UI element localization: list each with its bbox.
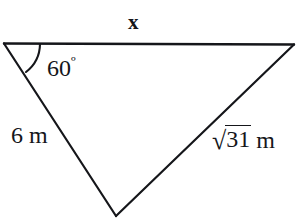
radical-sign-icon: √ — [212, 128, 226, 154]
triangle-drawing — [0, 0, 304, 224]
side-label-right: √31 m — [212, 126, 275, 153]
degree-symbol-icon: º — [71, 54, 76, 70]
side-label-left: 6 m — [11, 123, 48, 147]
side-label-top: x — [128, 12, 139, 33]
side-label-left-text: 6 m — [11, 122, 48, 148]
angle-label-value: 60 — [47, 55, 71, 81]
angle-label: 60º — [47, 56, 76, 80]
side-label-right-unit: m — [256, 127, 275, 153]
triangle-side-top — [4, 44, 294, 45]
radicand-value: 31 — [225, 125, 251, 151]
angle-arc-icon — [26, 44, 40, 72]
side-label-top-text: x — [128, 10, 139, 34]
geometry-figure: x 60º 6 m √31 m — [0, 0, 304, 224]
square-root-expression: √31 — [212, 126, 251, 153]
